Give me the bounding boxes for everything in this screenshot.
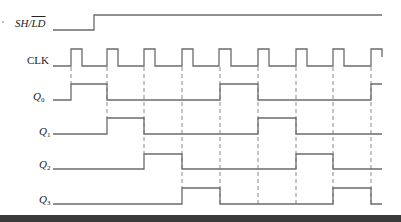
label-sh-ld: SH/LD — [15, 18, 46, 29]
q3-waveform — [53, 188, 382, 204]
label-q1-main: Q — [39, 125, 47, 137]
label-ld-overline: LD — [32, 17, 46, 29]
label-q3-sub: 3 — [47, 199, 51, 207]
label-sh-text: SH/ — [15, 17, 32, 29]
timing-diagram — [0, 0, 401, 222]
label-q3-main: Q — [39, 193, 47, 205]
label-q1: Q1 — [39, 126, 50, 139]
shld-waveform — [53, 15, 382, 30]
bottom-border-bar — [0, 215, 401, 222]
clk-waveform — [53, 49, 382, 66]
label-clk: CLK — [27, 55, 49, 66]
label-q2-sub: 2 — [47, 164, 51, 172]
label-q0-sub: 0 — [41, 96, 45, 104]
label-q2: Q2 — [39, 159, 50, 172]
label-q1-sub: 1 — [47, 131, 51, 139]
label-q0: Q0 — [33, 91, 44, 104]
label-q3: Q3 — [39, 194, 50, 207]
label-q2-main: Q — [39, 158, 47, 170]
label-clk-text: CLK — [27, 54, 49, 66]
clock-edge-markers — [71, 67, 371, 204]
q2-waveform — [53, 154, 382, 169]
label-q0-main: Q — [33, 90, 41, 102]
